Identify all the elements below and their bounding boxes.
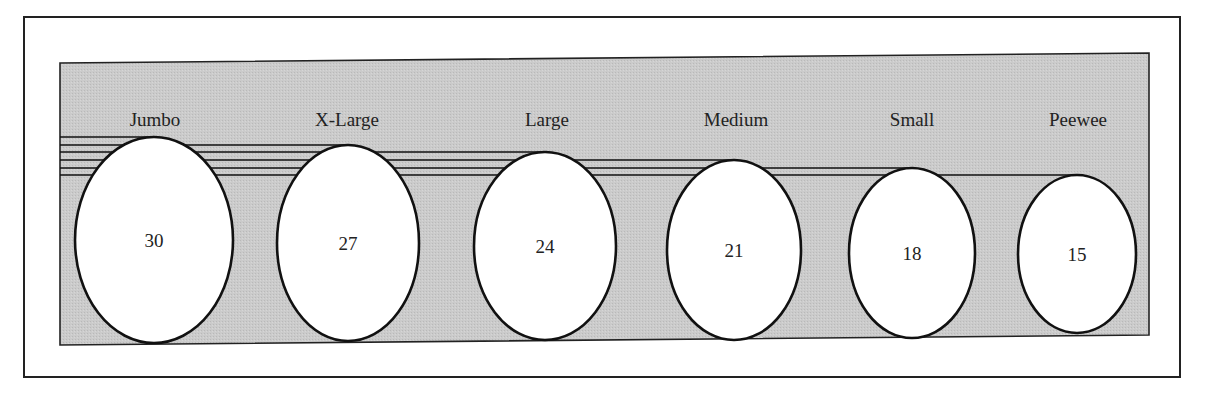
egg-peewee: 15	[1018, 175, 1136, 333]
egg-jumbo: 30	[75, 137, 233, 343]
category-label: Small	[890, 109, 934, 130]
egg-value: 15	[1068, 244, 1087, 265]
egg-x-large: 27	[277, 145, 419, 341]
egg-small: 18	[849, 168, 975, 338]
egg-medium: 21	[667, 160, 801, 340]
egg-value: 30	[145, 230, 164, 251]
egg-large: 24	[474, 152, 616, 340]
category-label: Jumbo	[130, 109, 181, 130]
egg-value: 21	[725, 240, 744, 261]
egg-value: 18	[903, 243, 922, 264]
category-label: X-Large	[315, 109, 379, 130]
egg-value: 24	[536, 236, 556, 257]
category-label: Large	[525, 109, 569, 130]
egg-value: 27	[339, 233, 358, 254]
category-label: Medium	[704, 109, 769, 130]
egg-size-pictograph: 302724211815 JumboX-LargeLargeMediumSmal…	[0, 0, 1208, 398]
category-label: Peewee	[1049, 109, 1107, 130]
